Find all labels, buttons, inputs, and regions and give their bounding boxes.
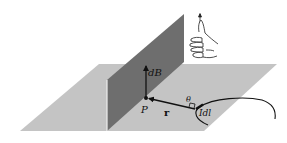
idl-label: Idl xyxy=(199,109,211,118)
theta-label: θ xyxy=(186,96,191,104)
db-label: dB xyxy=(148,68,162,78)
r-label: r xyxy=(164,108,169,118)
field-point-dot xyxy=(144,96,148,100)
biot-savart-diagram xyxy=(0,0,287,143)
right-hand-thumb-up-icon xyxy=(190,14,218,58)
p-label: P xyxy=(141,105,148,115)
